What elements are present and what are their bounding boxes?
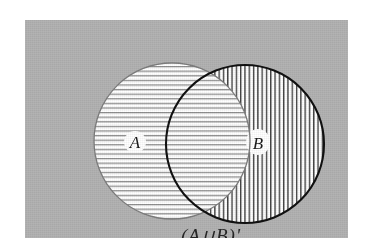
figure-page: A B (A∪B)' xyxy=(0,0,366,251)
figure-caption: (A∪B)' xyxy=(181,225,241,238)
set-b-label: B xyxy=(253,134,264,153)
set-a-label: A xyxy=(129,133,141,152)
venn-figure-panel: A B (A∪B)' xyxy=(25,20,348,238)
venn-diagram-svg: A B (A∪B)' xyxy=(25,20,348,238)
